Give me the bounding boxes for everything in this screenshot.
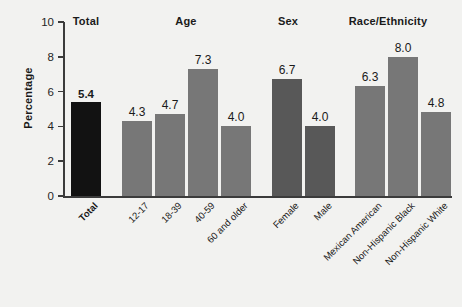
group-heading: Age (175, 15, 196, 27)
bar-value-label: 6.7 (279, 63, 296, 77)
x-axis-line (63, 196, 452, 198)
bar-chart: Percentage 0246810 TotalAgeSexRace/Ethni… (0, 0, 462, 307)
bar: 7.3 (188, 69, 218, 196)
y-axis-tick (58, 195, 64, 197)
y-axis-tick-label: 6 (14, 86, 54, 98)
bar: 8.0 (388, 57, 418, 196)
y-axis-tick-label: 10 (14, 16, 54, 28)
x-axis-category-label: Non-Hispanic White (383, 200, 450, 267)
group-heading: Sex (278, 15, 298, 27)
bar-value-label: 4.0 (228, 110, 245, 124)
y-axis-tick-label: 2 (14, 155, 54, 167)
bar-value-label: 4.8 (428, 96, 445, 110)
bar: 4.8 (421, 112, 451, 196)
bar-value-label: 8.0 (395, 41, 412, 55)
bar-value-label: 5.4 (78, 88, 94, 100)
bar-value-label: 4.7 (162, 98, 179, 112)
bar-value-label: 4.0 (312, 110, 329, 124)
y-axis-tick (58, 91, 64, 93)
y-axis-tick-label: 0 (14, 190, 54, 202)
bar: 4.0 (221, 126, 251, 196)
y-axis-tick (58, 126, 64, 128)
chart-screenshot: Percentage 0246810 TotalAgeSexRace/Ethni… (0, 0, 462, 307)
bar-value-label: 7.3 (195, 53, 212, 67)
x-axis-category-label: 12-17 (126, 200, 151, 225)
y-axis-tick (58, 160, 64, 162)
bar: 4.0 (305, 126, 335, 196)
bar-value-label: 6.3 (362, 70, 379, 84)
bar: 4.7 (155, 114, 185, 196)
y-axis-tick-label: 4 (14, 120, 54, 132)
y-axis-tick (58, 21, 64, 23)
x-axis-category-label: 18-39 (159, 200, 184, 225)
bar: 6.7 (272, 79, 302, 196)
x-axis-category-label: Male (311, 200, 333, 222)
bar: 5.4 (71, 102, 101, 196)
x-axis-category-label: Non-Hispanic Black (350, 200, 416, 266)
y-axis-tick (58, 56, 64, 58)
x-axis-category-label: 40-59 (192, 200, 217, 225)
x-axis-category-label: Total (76, 200, 99, 223)
y-axis-tick-label: 8 (14, 51, 54, 63)
group-heading: Race/Ethnicity (349, 15, 428, 27)
x-axis-category-label: Female (271, 200, 301, 230)
group-heading: Total (73, 15, 99, 27)
y-axis-line (63, 22, 65, 197)
bar-value-label: 4.3 (129, 105, 146, 119)
bar: 6.3 (355, 86, 385, 196)
bar: 4.3 (122, 121, 152, 196)
